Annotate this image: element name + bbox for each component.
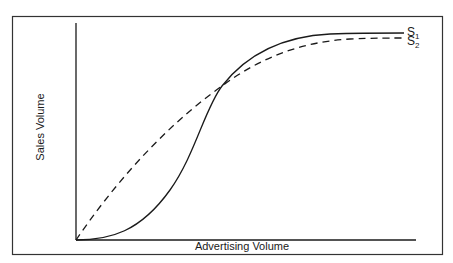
y-axis-label: Sales Volume — [34, 93, 46, 160]
s2-curve — [76, 38, 404, 240]
x-axis-label: Advertising Volume — [195, 240, 289, 252]
outer-frame — [13, 17, 443, 255]
s1-curve — [76, 33, 404, 240]
sales-advertising-chart: S1 S2 Sales Volume Advertising Volume — [0, 0, 453, 263]
